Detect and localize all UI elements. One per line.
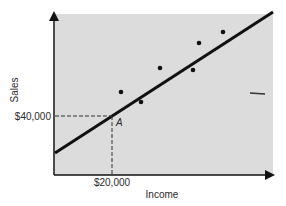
x-axis-label: Income (146, 189, 179, 200)
x-tick-label: $20,000 (94, 177, 131, 188)
plot-area (55, 14, 273, 175)
data-point (139, 100, 144, 105)
stray-mark (250, 93, 265, 94)
y-axis-label: Sales (9, 77, 20, 102)
data-point (191, 68, 196, 73)
scatter-chart: A $40,000 $20,000 Income Sales (0, 0, 286, 206)
data-point (158, 66, 163, 71)
data-point (221, 30, 226, 35)
y-tick-label: $40,000 (15, 111, 52, 122)
data-point (119, 90, 124, 95)
point-a-label: A (115, 117, 123, 128)
data-point (197, 41, 202, 46)
